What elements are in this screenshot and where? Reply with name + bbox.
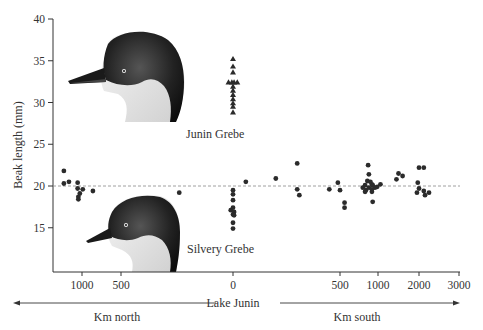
y-tick-label: 30 [34, 97, 46, 109]
y-tick-label: 25 [34, 138, 46, 150]
silvery-grebe-point [327, 187, 332, 192]
junin-grebe-point [230, 56, 236, 61]
silvery-grebe-illustration [86, 195, 180, 272]
silvery-grebe-point [363, 189, 368, 194]
silvery-grebe-point [342, 205, 347, 210]
silvery-grebe-point [370, 189, 375, 194]
silvery-grebe-point [366, 163, 371, 168]
junin-grebe-point [230, 63, 236, 68]
junin-grebe-point [230, 69, 236, 74]
silvery-grebe-point [423, 193, 428, 198]
silvery-grebe-point [396, 171, 401, 176]
x-tick-label: 1000 [71, 279, 94, 291]
x-axis: 10005000500100020003000 [53, 272, 471, 291]
y-axis-title: Beak length (mm) [11, 101, 25, 188]
x-tick-label: 500 [112, 279, 130, 291]
silvery-grebe-label: Silvery Grebe [187, 242, 254, 256]
silvery-grebe-point [231, 220, 236, 225]
silvery-grebe-point [232, 213, 237, 218]
silvery-grebe-point [370, 199, 375, 204]
x-tick-label: 1000 [367, 279, 390, 291]
silvery-grebe-point [335, 180, 340, 185]
y-tick-label: 15 [34, 222, 46, 234]
silvery-grebe-point [231, 226, 236, 231]
x-tick-label: 0 [230, 279, 236, 291]
silvery-grebe-point [378, 182, 383, 187]
silvery-grebe-point [421, 165, 426, 170]
silvery-grebe-point [231, 192, 236, 197]
silvery-grebe-point [417, 165, 422, 170]
silvery-grebe-point [295, 161, 300, 166]
km-north-label: Km north [94, 310, 140, 324]
junin-grebe-label: Junin Grebe [186, 127, 244, 141]
silvery-grebe-point [76, 197, 81, 202]
north-arrow [13, 301, 216, 306]
silvery-grebe-point [366, 172, 371, 177]
silvery-grebe-point [427, 190, 432, 195]
y-tick-label: 35 [34, 55, 46, 67]
x-tick-label: 3000 [448, 279, 471, 291]
lake-junin-label: Lake Junin [207, 296, 260, 310]
silvery-grebe-point [75, 186, 80, 191]
silvery-grebe-point [415, 190, 420, 195]
silvery-grebe-point [231, 198, 236, 203]
south-arrow [280, 301, 460, 306]
silvery-grebe-point [415, 180, 420, 185]
scatter-chart: 152025303540 10005000500100020003000 Jun… [0, 0, 483, 330]
y-axis: 152025303540 [34, 13, 54, 272]
silvery-grebe-point [297, 193, 302, 198]
x-tick-label: 2000 [408, 279, 431, 291]
junin-grebe-point [230, 109, 236, 114]
y-tick-label: 40 [34, 13, 46, 25]
silvery-grebe-point [400, 174, 405, 179]
silvery-grebe-point [394, 177, 399, 182]
y-tick-label: 20 [34, 180, 46, 192]
silvery-grebe-point [61, 169, 66, 174]
silvery-grebe-point [417, 186, 422, 191]
junin-grebe-illustration [68, 32, 184, 122]
silvery-grebe-point [421, 189, 426, 194]
silvery-grebe-point [338, 188, 343, 193]
silvery-grebe-point [243, 179, 248, 184]
silvery-grebe-point [231, 188, 236, 193]
silvery-grebe-point [273, 176, 278, 181]
silvery-grebe-point [177, 190, 182, 195]
silvery-grebe-point [61, 181, 66, 186]
km-south-label: Km south [333, 310, 380, 324]
silvery-grebe-point [342, 200, 347, 205]
silvery-grebe-point [67, 179, 72, 184]
silvery-grebe-point [91, 189, 96, 194]
silvery-grebe-point [295, 187, 300, 192]
silvery-grebe-point [80, 187, 85, 192]
silvery-grebe-point [75, 180, 80, 185]
x-tick-label: 500 [331, 279, 349, 291]
